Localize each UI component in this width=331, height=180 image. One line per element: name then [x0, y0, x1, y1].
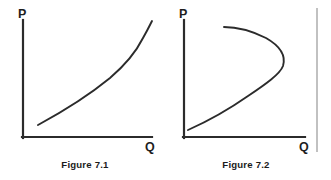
figure-7-1-group: P Q Figure 7.1	[18, 7, 155, 170]
figure-sheet: P Q Figure 7.1 P Q Figure 7.2	[0, 0, 331, 180]
figure-7-2-y-axis-label: P	[179, 7, 187, 21]
figure-7-1-x-axis-label: Q	[145, 140, 155, 154]
figure-7-2-x-axis-label: Q	[299, 140, 309, 154]
figure-7-1-supply-curve	[38, 21, 152, 125]
figure-7-2-backward-bending-curve	[188, 27, 284, 130]
figure-7-2-group: P Q Figure 7.2	[179, 7, 309, 170]
figure-7-1-caption: Figure 7.1	[61, 159, 109, 170]
figure-7-2-caption: Figure 7.2	[222, 159, 269, 170]
figures-canvas: P Q Figure 7.1 P Q Figure 7.2	[0, 0, 331, 180]
figure-7-1-y-axis-label: P	[18, 7, 26, 21]
